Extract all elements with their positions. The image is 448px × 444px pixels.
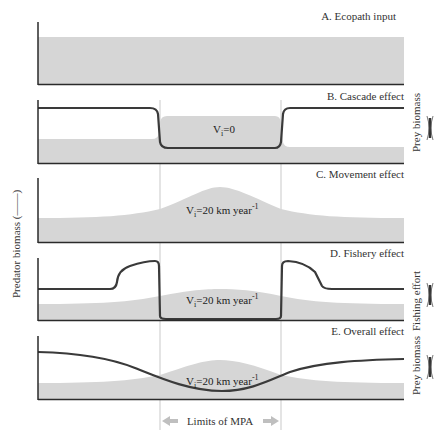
svg-text:Fishing effort: Fishing effort [410,271,422,331]
panel-a-prey-fill [38,37,404,84]
panel-d-side-label: Fishing effort [410,271,422,331]
panel-e: E. Overall effect Vi=20 km year-1 Prey b… [38,325,433,400]
mpa-effects-figure: A. Ecopath input B. Cascade effect Vi=0 … [0,0,448,444]
left-arrow-icon [162,416,178,426]
panel-d: D. Fishery effect Vi=20 km year-1 Fishin… [38,247,433,331]
panel-b-prey-fill [38,116,404,163]
fishing-effort-legend-swatch [427,283,433,307]
panel-b-side-label: Prey biomass [410,93,422,152]
svg-text:Prey biomass: Prey biomass [410,93,422,152]
panel-b-title: B. Cascade effect [327,90,404,102]
prey-legend-swatch-b [427,116,433,140]
panel-d-title: D. Fishery effect [330,247,404,259]
panel-c: C. Movement effect Vi=20 km year-1 [38,168,404,243]
panel-a: A. Ecopath input [38,10,404,85]
svg-text:Predator biomass (——): Predator biomass (——) [10,190,23,298]
y-axis-label: Predator biomass (——) [10,190,23,298]
panel-b: B. Cascade effect Vi=0 Prey biomass [38,90,433,164]
panel-a-title: A. Ecopath input [321,10,396,22]
panel-c-title: C. Movement effect [316,168,404,180]
svg-text:Prey biomass: Prey biomass [410,336,422,395]
mpa-limits-annotation: Limits of MPA [162,415,279,427]
mpa-limits-label: Limits of MPA [187,415,253,427]
right-arrow-icon [263,416,279,426]
panel-e-side-label: Prey biomass [410,336,422,395]
prey-legend-swatch-e [427,355,433,379]
panel-e-title: E. Overall effect [331,325,404,337]
